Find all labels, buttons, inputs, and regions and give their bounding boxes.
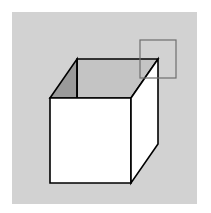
cube-front-face (50, 98, 131, 183)
diagram-canvas (0, 0, 211, 213)
cube-diagram (0, 0, 211, 213)
